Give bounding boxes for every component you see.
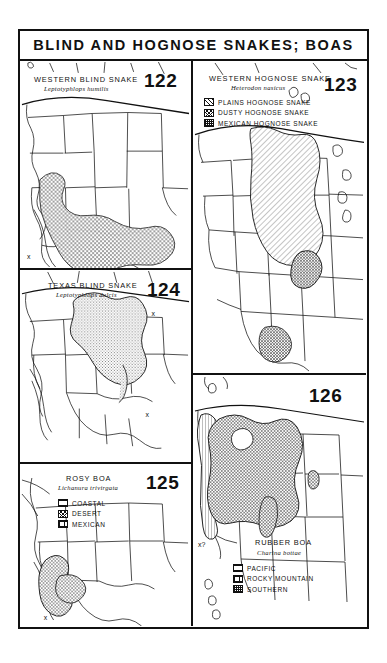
range-shade-126-rocky bbox=[207, 415, 302, 527]
legend-item[interactable]: MEXICAN bbox=[58, 520, 106, 528]
range-shade-123-dusty bbox=[291, 251, 322, 289]
legend-label: SOUTHERN bbox=[247, 586, 288, 593]
legend-item[interactable]: PLAINS HOGNOSE SNAKE bbox=[204, 98, 318, 106]
legend-label: DESERT bbox=[72, 510, 102, 517]
legend-label: MEXICAN bbox=[72, 521, 105, 528]
range-shade-126-southern bbox=[259, 497, 278, 538]
legend-item[interactable]: DESERT bbox=[58, 510, 106, 518]
map-panel-126[interactable]: x? 126 RUBBER BOA Charina bottae PACIFIC… bbox=[193, 375, 366, 626]
legend-swatch-cross-hatch-icon bbox=[58, 510, 68, 518]
legend-swatch-grid-icon bbox=[233, 575, 243, 583]
plate-title: BLIND AND HOGNOSE SNAKES; BOAS bbox=[33, 37, 354, 53]
legend-swatch-cross-hatch-icon bbox=[204, 109, 214, 117]
legend-label: PACIFIC bbox=[247, 565, 276, 572]
svg-text:x: x bbox=[151, 310, 155, 317]
legend-item[interactable]: PACIFIC bbox=[233, 564, 314, 572]
map-panel-125[interactable]: x ROSY BOA Lichanura trivirgata 125 COAS… bbox=[20, 464, 193, 626]
range-shade-123-plains bbox=[250, 127, 323, 266]
map-panel-124[interactable]: x x TEXAS BLIND SNAKE Leptotyphlops dulc… bbox=[20, 270, 193, 464]
legend-swatch-horizontal-grid-icon bbox=[233, 564, 243, 572]
svg-text:x: x bbox=[27, 253, 31, 260]
legend-label: MEXICAN HOGNOSE SNAKE bbox=[218, 120, 318, 127]
range-shade-123-mexican bbox=[259, 326, 292, 362]
svg-text:x: x bbox=[44, 614, 48, 621]
panel-126-legend: PACIFIC ROCKY MOUNTAIN SOUTHERN bbox=[233, 564, 314, 596]
map-panel-122[interactable]: x WESTERN BLIND SNAKE Leptotyphlops humi… bbox=[20, 61, 193, 270]
legend-swatch-stipple-grid-icon bbox=[233, 585, 243, 593]
range-shade-124 bbox=[70, 293, 147, 385]
range-shade-122 bbox=[40, 173, 175, 268]
legend-item[interactable]: DUSTY HOGNOSE SNAKE bbox=[204, 109, 318, 117]
legend-label: DUSTY HOGNOSE SNAKE bbox=[218, 109, 309, 116]
svg-text:x?: x? bbox=[198, 541, 206, 548]
plate-title-bar: BLIND AND HOGNOSE SNAKES; BOAS bbox=[20, 31, 367, 61]
map-panel-123[interactable]: WESTERN HOGNOSE SNAKE Heterodon nasicus … bbox=[193, 61, 366, 375]
map-125-graphic: x bbox=[20, 464, 191, 626]
legend-item[interactable]: SOUTHERN bbox=[233, 585, 314, 593]
legend-swatch-grid-icon bbox=[58, 520, 68, 528]
legend-item[interactable]: ROCKY MOUNTAIN bbox=[233, 575, 314, 583]
legend-label: ROCKY MOUNTAIN bbox=[247, 575, 314, 582]
map-plate: BLIND AND HOGNOSE SNAKES; BOAS bbox=[18, 29, 369, 629]
legend-swatch-stipple-grid-icon bbox=[204, 119, 214, 127]
svg-text:x: x bbox=[146, 411, 150, 418]
legend-swatch-horizontal-grid-icon bbox=[58, 499, 68, 507]
legend-swatch-diagonal-hatch-icon bbox=[204, 98, 214, 106]
legend-label: COASTAL bbox=[72, 500, 106, 507]
panel-123-legend: PLAINS HOGNOSE SNAKE DUSTY HOGNOSE SNAKE… bbox=[204, 98, 318, 130]
range-shade-125-desert bbox=[56, 575, 86, 603]
map-124-graphic: x x bbox=[20, 270, 191, 462]
map-122-graphic: x bbox=[20, 61, 191, 268]
legend-label: PLAINS HOGNOSE SNAKE bbox=[218, 99, 311, 106]
panel-125-legend: COASTAL DESERT MEXICAN bbox=[58, 499, 106, 531]
legend-item[interactable]: MEXICAN HOGNOSE SNAKE bbox=[204, 119, 318, 127]
legend-item[interactable]: COASTAL bbox=[58, 499, 106, 507]
